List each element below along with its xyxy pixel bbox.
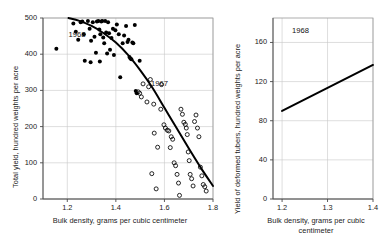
left-axis-spines: [43, 18, 213, 199]
left-series-1967: [136, 78, 208, 198]
left-ytick-0: 0: [9, 194, 37, 203]
left-gridlines: [43, 18, 213, 199]
left-x-axis-title: Bulk density, grams per cubic centimeter: [20, 216, 220, 226]
left-ytick-1: 100: [9, 158, 37, 167]
left-chart-panel: Total yield, hundred weights per acre Bu…: [0, 0, 222, 249]
right-x-axis-title: Bulk density, grams per cubic centimeter: [246, 216, 386, 235]
right-ytick-3: 120: [239, 77, 267, 86]
left-annotation-1967: 1967: [151, 79, 168, 88]
right-ytick-1: 40: [239, 155, 267, 164]
left-frame: [43, 18, 213, 199]
left-tick-marks: [40, 18, 213, 202]
figure-root: Total yield, hundred weights per acre Bu…: [0, 0, 387, 249]
right-xtick-2: 1.4: [361, 203, 385, 212]
right-ytick-0: 0: [239, 194, 267, 203]
left-ytick-5: 500: [9, 13, 37, 22]
left-ytick-2: 200: [9, 122, 37, 131]
left-xtick-2: 1.6: [152, 203, 176, 212]
left-xtick-0: 1.2: [55, 203, 79, 212]
left-annotation-1968: 1968: [69, 30, 86, 39]
right-xtick-1: 1.3: [316, 203, 340, 212]
right-tick-marks: [270, 42, 373, 202]
left-xtick-1: 1.4: [104, 203, 128, 212]
right-xtick-0: 1.2: [270, 203, 294, 212]
right-ytick-2: 80: [239, 116, 267, 125]
right-y-axis-title: Yield of deformed tubers, hundred weight…: [233, 44, 243, 214]
right-chart-panel: Yield of deformed tubers, hundred weight…: [222, 0, 387, 249]
right-ytick-4: 160: [239, 37, 267, 46]
left-ytick-4: 400: [9, 49, 37, 58]
right-annotation-1968: 1968: [292, 26, 309, 35]
left-ytick-3: 300: [9, 85, 37, 94]
